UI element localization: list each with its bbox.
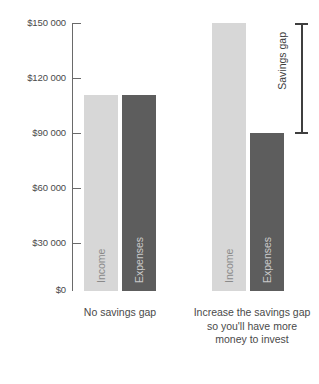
savings-gap-bracket-cap-bottom (295, 132, 308, 134)
bar-right-income: Income (212, 23, 246, 291)
y-tick-mark-150000 (72, 23, 81, 24)
y-tick-mark-120000 (72, 78, 81, 79)
y-tick-mark-90000 (72, 133, 81, 134)
y-tick-label-90000: $90 000 (32, 128, 66, 138)
group-caption-right: Increase the savings gap so you'll have … (192, 306, 312, 347)
y-tick-label-150000: $150 000 (27, 18, 66, 28)
bar-left-income: Income (84, 95, 118, 291)
y-axis-line (72, 23, 73, 291)
savings-gap-annotation-label: Savings gap (277, 32, 288, 90)
y-tick-mark-60000 (72, 188, 81, 189)
y-tick-label-30000: $30 000 (32, 238, 66, 248)
y-tick-label-0: $0 (56, 285, 66, 295)
savings-gap-bracket-stem (301, 23, 303, 134)
savings-gap-bracket-cap-top (295, 23, 308, 25)
group-caption-left: No savings gap (62, 306, 178, 320)
savings-gap-bar-chart: $150 000 $120 000 $90 000 $60 000 $30 00… (0, 0, 319, 384)
bar-right-expenses: Expenses (250, 133, 284, 291)
y-tick-label-60000: $60 000 (32, 183, 66, 193)
y-tick-mark-30000 (72, 243, 81, 244)
y-tick-label-120000: $120 000 (27, 73, 66, 83)
bar-left-expenses: Expenses (122, 95, 156, 291)
